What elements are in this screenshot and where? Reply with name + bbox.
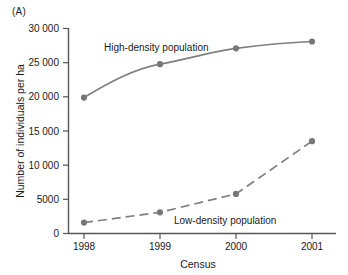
x-axis-title: Census bbox=[180, 258, 216, 270]
data-point-low-1998 bbox=[81, 220, 87, 226]
y-tick-label-30000: 30 000 bbox=[28, 23, 59, 34]
x-tick-label-2001: 2001 bbox=[301, 241, 324, 252]
y-tick-label-25000: 25 000 bbox=[28, 57, 59, 68]
y-tick-label-10000: 10 000 bbox=[28, 160, 59, 171]
y-axis-ticks bbox=[63, 29, 68, 234]
data-point-low-2001 bbox=[309, 138, 315, 144]
data-point-high-2001 bbox=[309, 38, 315, 44]
line-chart: 30 000 25 000 20 000 15 000 10 000 5000 … bbox=[0, 0, 348, 275]
data-point-high-1999 bbox=[157, 61, 163, 67]
y-axis-title: Number of individuals per ha bbox=[14, 64, 26, 198]
series-label-high-density: High-density population bbox=[104, 42, 209, 53]
series-line-low-density bbox=[84, 141, 312, 222]
y-tick-label-5000: 5000 bbox=[37, 194, 60, 205]
data-point-high-2000 bbox=[233, 45, 239, 51]
x-tick-label-1998: 1998 bbox=[73, 241, 96, 252]
data-point-low-1999 bbox=[157, 209, 163, 215]
series-markers-low-density bbox=[81, 138, 315, 226]
x-tick-label-1999: 1999 bbox=[149, 241, 172, 252]
y-tick-label-20000: 20 000 bbox=[28, 91, 59, 102]
figure-panel-a: (A) 30 000 25 000 20 000 15 000 10 000 5… bbox=[0, 0, 348, 275]
x-axis-ticks bbox=[84, 234, 312, 240]
x-tick-label-2000: 2000 bbox=[225, 241, 248, 252]
series-label-low-density: Low-density population bbox=[174, 215, 276, 226]
data-point-high-1998 bbox=[81, 95, 87, 101]
data-point-low-2000 bbox=[233, 191, 239, 197]
y-tick-label-0: 0 bbox=[53, 228, 59, 239]
y-tick-label-15000: 15 000 bbox=[28, 126, 59, 137]
